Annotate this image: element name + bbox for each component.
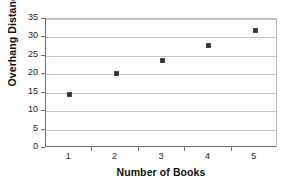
data-point [206, 43, 211, 48]
y-axis-tick-label: 25 [16, 50, 38, 59]
y-axis-tick-mark [41, 18, 45, 19]
y-axis-tick-label: 20 [16, 68, 38, 77]
data-point [253, 28, 258, 33]
x-axis-tick-label: 1 [56, 151, 80, 161]
gridline [46, 37, 276, 38]
x-axis-tick-label: 4 [195, 151, 219, 161]
data-point [160, 58, 165, 63]
gridline [46, 19, 276, 20]
gridline [46, 93, 276, 94]
gridlines [46, 19, 276, 146]
y-axis-tick-mark [41, 92, 45, 93]
y-axis-tick-label: 0 [16, 142, 38, 151]
x-axis-tick-mark [231, 147, 232, 151]
y-axis-tick-label: 5 [16, 124, 38, 133]
x-axis-tick-mark [91, 147, 92, 151]
y-axis-tick-mark [41, 147, 45, 148]
gridline [46, 130, 276, 131]
y-axis-tick-label: 35 [16, 13, 38, 22]
x-axis-tick-label: 5 [242, 151, 266, 161]
data-point [114, 71, 119, 76]
y-axis-tick-label: 30 [16, 31, 38, 40]
y-axis-tick-mark [41, 55, 45, 56]
plot-area [45, 18, 277, 147]
x-axis-title: Number of Books [45, 166, 277, 178]
y-axis-tick-label: 15 [16, 87, 38, 96]
y-axis-tick-mark [41, 36, 45, 37]
x-axis-tick-label: 3 [149, 151, 173, 161]
data-point [67, 92, 72, 97]
y-axis-tick-mark [41, 110, 45, 111]
x-axis-tick-mark [138, 147, 139, 151]
scatter-chart: Overhang Distance (cm) 05101520253035 12… [0, 0, 289, 185]
y-axis-tick-mark [41, 73, 45, 74]
gridline [46, 74, 276, 75]
y-axis-tick-mark [41, 129, 45, 130]
x-axis-tick-mark [184, 147, 185, 151]
x-axis-tick-label: 2 [103, 151, 127, 161]
gridline [46, 111, 276, 112]
y-axis-tick-label: 10 [16, 105, 38, 114]
